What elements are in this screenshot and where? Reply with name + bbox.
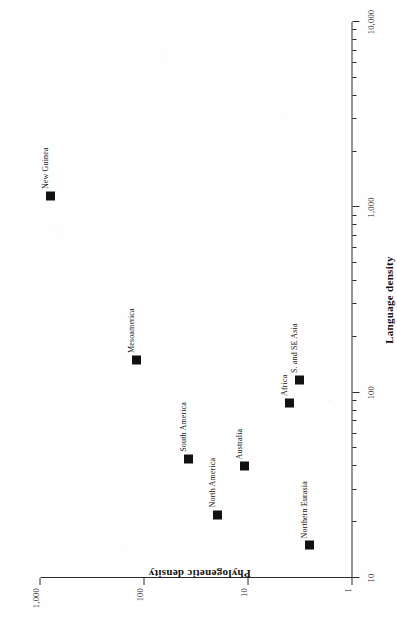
data-point	[295, 376, 304, 385]
y-tick-label: 1,000	[30, 588, 40, 622]
data-point-label: Mesoamerica	[126, 308, 135, 353]
x-tick-label: 100	[365, 386, 375, 399]
data-point	[131, 356, 140, 365]
y-tick	[39, 578, 40, 585]
x-tick	[352, 50, 356, 51]
data-point-label: North America	[207, 458, 216, 508]
x-tick	[352, 336, 356, 337]
data-point	[46, 192, 55, 201]
x-axis-line	[351, 22, 352, 578]
x-tick	[352, 280, 356, 281]
x-tick	[352, 447, 356, 448]
x-tick	[352, 420, 356, 421]
x-tick	[352, 465, 356, 466]
x-tick	[352, 410, 356, 411]
data-point	[212, 510, 221, 519]
x-tick	[352, 262, 356, 263]
y-tick-label: 1	[342, 588, 352, 622]
rotated-figure-canvas: 101001,00010,000 1101001,000 New GuineaM…	[0, 0, 397, 626]
x-axis-title: Language density	[382, 22, 394, 578]
x-tick	[352, 224, 356, 225]
x-tick	[352, 206, 359, 207]
data-point-label: Northern Eurasia	[299, 481, 308, 538]
data-point-label: Africa	[279, 375, 288, 396]
scatter-plot: 101001,00010,000 1101001,000 New GuineaM…	[0, 0, 397, 626]
x-tick	[352, 392, 359, 393]
x-tick	[352, 151, 356, 152]
y-axis-title: Phylogenetic density	[43, 568, 355, 580]
x-tick-label: 10,000	[365, 10, 375, 35]
data-point	[304, 541, 313, 550]
x-tick	[352, 521, 356, 522]
data-point-label: New Guinea	[40, 147, 49, 189]
x-tick	[352, 118, 356, 119]
data-point-label: S. and SE Asia	[289, 323, 298, 373]
x-tick	[352, 247, 356, 248]
x-tick	[352, 39, 356, 40]
data-point	[239, 462, 248, 471]
x-tick	[352, 21, 359, 22]
x-tick	[352, 62, 356, 63]
x-tick	[352, 77, 356, 78]
y-tick-label: 100	[134, 588, 144, 622]
x-tick	[352, 235, 356, 236]
y-tick-label: 10	[238, 588, 248, 622]
x-tick-label: 10	[365, 574, 375, 583]
data-point	[183, 454, 192, 463]
x-tick	[352, 29, 356, 30]
x-tick	[352, 433, 356, 434]
x-tick	[352, 489, 356, 490]
data-point-label: Australia	[234, 429, 243, 460]
x-tick	[352, 400, 356, 401]
x-tick	[352, 95, 356, 96]
data-point	[285, 398, 294, 407]
x-tick	[352, 215, 356, 216]
x-tick	[352, 303, 356, 304]
data-point-label: South America	[178, 402, 187, 452]
x-tick-label: 1,000	[365, 197, 375, 217]
